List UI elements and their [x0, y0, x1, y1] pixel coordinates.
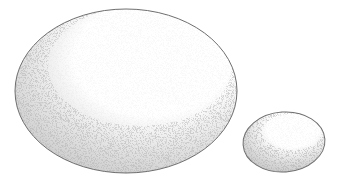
eggs-illustration: [0, 0, 352, 187]
